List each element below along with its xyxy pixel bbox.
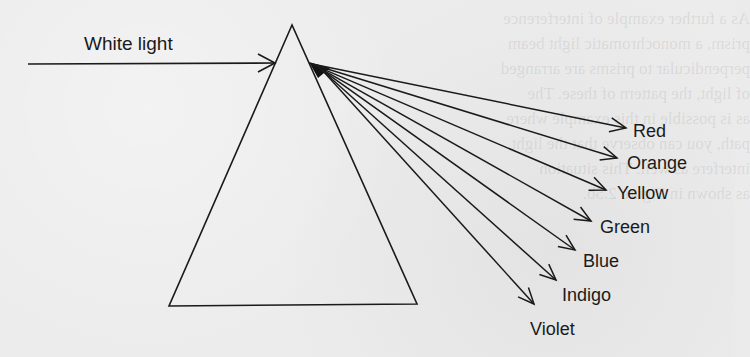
ray-green [317,66,592,221]
ray-red [312,64,626,132]
ray-blue [318,67,575,250]
label-red: Red [633,122,666,140]
label-orange: Orange [627,154,687,172]
ray-violet [321,69,534,304]
ray-orange [314,65,618,160]
ray-yellow [315,66,606,191]
label-green: Green [600,218,650,236]
label-blue: Blue [583,252,619,270]
label-yellow: Yellow [617,184,668,202]
white-light-ray [28,54,275,72]
prism-triangle [169,25,417,306]
label-indigo: Indigo [562,286,611,304]
white-light-label: White light [84,34,173,53]
dispersed-rays [312,64,626,304]
label-violet: Violet [530,320,575,338]
ray-indigo [320,68,557,280]
